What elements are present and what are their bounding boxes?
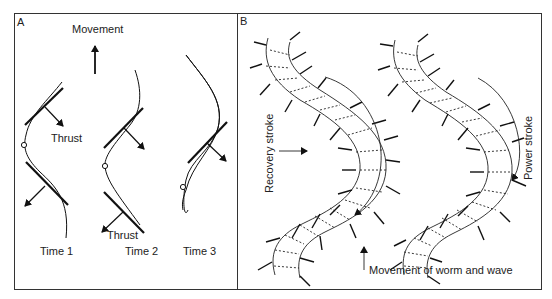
time-label-2: Time 2 <box>125 246 158 257</box>
recovery-stroke-label: Recovery stroke <box>264 114 275 193</box>
thrust-label-2: Thrust <box>107 230 138 241</box>
power-stroke-label: Power stroke <box>523 116 534 180</box>
time-label-3: Time 3 <box>183 246 216 257</box>
worm-left <box>266 38 386 278</box>
panel-b-letter: B <box>240 16 247 27</box>
diagram-drawing <box>0 0 552 299</box>
thrust-label-1: Thrust <box>51 133 82 144</box>
time1-wave <box>21 82 68 238</box>
time3-wave <box>180 55 227 213</box>
movement-label: Movement <box>72 24 123 35</box>
time2-wave <box>102 70 144 233</box>
power-arc-arrow-icon <box>478 78 520 180</box>
recovery-arc-arrow-icon <box>325 77 381 215</box>
worm-right <box>394 40 512 278</box>
parapodia-spikes <box>250 32 526 286</box>
panel-a-letter: A <box>17 17 24 28</box>
movement-worm-label: Movement of worm and wave <box>369 265 513 276</box>
time-label-1: Time 1 <box>40 246 73 257</box>
